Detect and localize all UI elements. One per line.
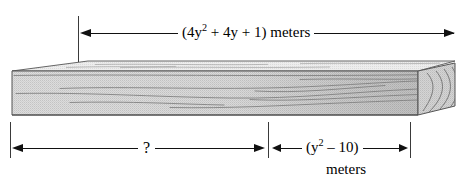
bottom-dimension-middle-tick [268, 122, 269, 158]
bottom-right-dimension-left-arrowhead [272, 144, 281, 152]
bottom-left-dimension-right-arrowhead [254, 144, 265, 152]
top-dimension-label: (4y2 + 4y + 1) meters [178, 25, 314, 40]
top-dimension-left-arrowhead [80, 29, 91, 37]
bottom-right-dimension-unit: meters [303, 162, 389, 177]
wooden-board [0, 58, 463, 124]
board-top-face [12, 61, 455, 71]
bottom-left-dimension-left-arrowhead [12, 144, 23, 152]
bottom-right-dimension-label: (y2 – 10) [302, 140, 363, 155]
board-drawing [0, 58, 463, 124]
bottom-left-dimension-label: ? [138, 140, 155, 156]
top-dimension-left-tick [78, 16, 79, 62]
figure-canvas: (4y2 + 4y + 1) meters [0, 0, 463, 183]
bottom-dimension-right-tick [410, 122, 411, 158]
top-dimension-right-arrowhead [444, 29, 455, 37]
bottom-right-dimension-right-arrowhead [399, 144, 408, 152]
board-end-face [418, 63, 455, 115]
bottom-dimension-left-tick [10, 122, 11, 158]
